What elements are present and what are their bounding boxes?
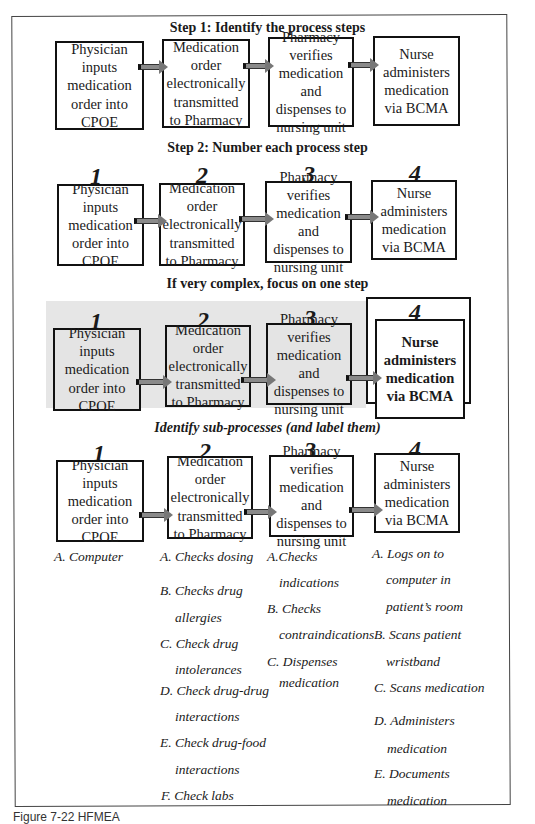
subprocess-item: C. Scans medication xyxy=(374,680,485,696)
focus-step-label: Nurse administers medication via BCMA xyxy=(379,333,461,406)
row2-step3-box: Pharmacy verifies medication and dispens… xyxy=(265,181,352,263)
subprocess-item: C. Dispenses xyxy=(267,654,338,670)
row2-step1-box: Physician inputs medication order into C… xyxy=(57,184,144,266)
heading-step1: Step 1: Identify the process steps xyxy=(0,20,535,36)
row4-step4-box: Nurse administers medication via BCMA xyxy=(374,453,460,533)
subprocess-item: allergies xyxy=(175,610,222,626)
subprocess-item: D. Administers xyxy=(374,713,455,729)
subprocess-item: E. Check drug-food xyxy=(160,735,266,751)
step-label: Pharmacy verifies medication and dispens… xyxy=(272,28,350,137)
subprocess-item: wristband xyxy=(386,654,440,670)
arrow-right-icon xyxy=(348,60,379,70)
subprocess-item: A. Logs on to xyxy=(372,546,444,562)
step-label: Physician inputs medication order into C… xyxy=(61,180,140,271)
subprocess-item: B. Checks xyxy=(267,601,321,617)
subprocess-item: D. Check drug-drug xyxy=(160,683,269,699)
subprocess-item: A.Checks xyxy=(267,549,318,565)
row1-step3-box: Pharmacy verifies medication and dispens… xyxy=(268,37,354,127)
step-label: Pharmacy verifies medication and dispens… xyxy=(270,310,348,419)
row4-step2-box: Medication order electronically transmit… xyxy=(167,456,253,539)
subprocess-item: indications xyxy=(279,575,339,591)
row1-step2-box: Medication order electronically transmit… xyxy=(162,39,250,128)
row4-step3-box: Pharmacy verifies medication and dispens… xyxy=(269,455,354,537)
subprocess-item: medication xyxy=(279,675,339,691)
subprocess-item: computer in xyxy=(386,572,451,588)
figure-caption: Figure 7-22 HFMEA xyxy=(13,810,120,824)
subprocess-item: F. Check labs xyxy=(161,788,234,804)
subprocess-item: medication xyxy=(387,793,447,809)
step-label: Nurse administers medication via BCMA xyxy=(378,457,456,530)
step-label: Medication order electronically transmit… xyxy=(171,452,250,543)
subprocess-item: medication xyxy=(387,741,447,757)
subprocess-item: A. Checks dosing xyxy=(160,549,253,565)
row2-step4-box: Nurse administers medication via BCMA xyxy=(371,180,457,260)
arrow-right-icon xyxy=(136,377,172,387)
row1-step1-box: Physician inputs medication order into C… xyxy=(55,41,144,130)
arrow-right-icon xyxy=(244,507,277,517)
row2-step2-box: Medication order electronically transmit… xyxy=(159,183,245,266)
row4-step1-box: Physician inputs medication order into C… xyxy=(56,460,144,542)
arrow-right-icon xyxy=(345,212,379,222)
arrow-right-icon xyxy=(134,216,167,226)
subprocess-item: E. Documents xyxy=(374,766,450,782)
heading-subprocesses: Identify sub-processes (and label them) xyxy=(0,420,535,436)
step-label: Medication order electronically transmit… xyxy=(166,38,246,129)
focus-step4-box: Nurse administers medication via BCMA xyxy=(375,319,465,419)
subprocess-item: intolerances xyxy=(175,662,242,678)
step-label: Physician inputs medication order into C… xyxy=(59,40,140,131)
step-label: Physician inputs medication order into C… xyxy=(60,456,140,547)
step-label: Medication order electronically transmit… xyxy=(169,321,248,412)
subprocess-item: contraindications xyxy=(279,627,374,643)
row1-step4-box: Nurse administers medication via BCMA xyxy=(373,36,460,126)
arrow-right-icon xyxy=(241,375,276,385)
step-label: Medication order electronically transmit… xyxy=(163,179,242,270)
step-label: Physician inputs medication order into C… xyxy=(57,324,137,415)
subprocess-item: interactions xyxy=(175,762,240,778)
heading-step2: Step 2: Number each process step xyxy=(0,140,535,156)
subprocess-item: A. Computer xyxy=(54,549,123,565)
step-label: Pharmacy verifies medication and dispens… xyxy=(273,442,350,551)
subprocess-item: patient’s room xyxy=(386,599,463,615)
arrow-right-icon xyxy=(138,62,168,72)
arrow-right-icon xyxy=(139,510,173,520)
arrow-right-icon xyxy=(239,214,274,224)
heading-focus: If very complex, focus on one step xyxy=(0,276,535,292)
step-label: Pharmacy verifies medication and dispens… xyxy=(269,168,348,277)
step-label: Nurse administers medication via BCMA xyxy=(377,45,456,118)
step-label: Nurse administers medication via BCMA xyxy=(375,184,453,257)
row3-step2-box: Medication order electronically transmit… xyxy=(165,325,251,407)
arrow-right-icon xyxy=(346,373,382,383)
arrow-right-icon xyxy=(349,505,383,515)
subprocess-item: B. Checks drug xyxy=(160,583,243,599)
arrow-right-icon xyxy=(243,61,274,71)
subprocess-item: interactions xyxy=(175,709,240,725)
row3-step3-box: Pharmacy verifies medication and dispens… xyxy=(266,323,352,405)
subprocess-item: B. Scans patient xyxy=(374,627,461,643)
subprocess-item: C. Check drug xyxy=(160,636,238,652)
row3-step1-box: Physician inputs medication order into C… xyxy=(53,328,141,411)
